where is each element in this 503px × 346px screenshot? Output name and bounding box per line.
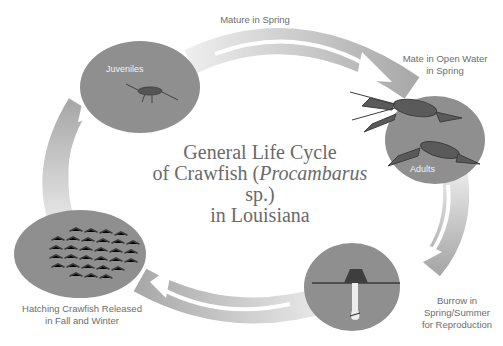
label-line: Spring/Summer <box>412 307 502 319</box>
stage-juveniles <box>80 41 200 133</box>
label-burrow: Burrow in Spring/Summer for Reproduction <box>412 295 502 331</box>
title-line-2: of Crawfish (Procambarus sp.) <box>150 163 370 205</box>
label-line: for Reproduction <box>412 319 502 331</box>
label-line: in Spring <box>390 65 500 77</box>
label-hatching: Hatching Crawfish Released in Fall and W… <box>12 303 152 327</box>
stage-hatchlings <box>14 210 146 298</box>
label-adults: Adults <box>410 164 435 174</box>
label-mate-in-open-water: Mate in Open Water in Spring <box>390 53 500 77</box>
label-juveniles: Juveniles <box>106 64 144 74</box>
arrow-hatch <box>140 266 330 310</box>
title-line-2-prefix: of Crawfish ( <box>153 162 260 184</box>
label-line: Hatching Crawfish Released <box>12 303 152 315</box>
title-line-2-suffix: sp.) <box>245 183 274 205</box>
diagram-title: General Life Cycle of Crawfish (Procamba… <box>150 142 370 226</box>
arrow-mature <box>190 41 412 88</box>
species-name: Procambarus <box>259 162 367 184</box>
label-mature-in-spring: Mature in Spring <box>200 14 310 26</box>
title-line-3: in Louisiana <box>150 205 370 226</box>
stage-burrow <box>304 243 400 331</box>
life-cycle-diagram: General Life Cycle of Crawfish (Procamba… <box>0 0 503 346</box>
arrow-burrow <box>412 175 456 268</box>
label-line: in Fall and Winter <box>12 315 152 327</box>
label-line: Mate in Open Water <box>390 53 500 65</box>
label-line: Burrow in <box>412 295 502 307</box>
title-line-1: General Life Cycle <box>150 142 370 163</box>
